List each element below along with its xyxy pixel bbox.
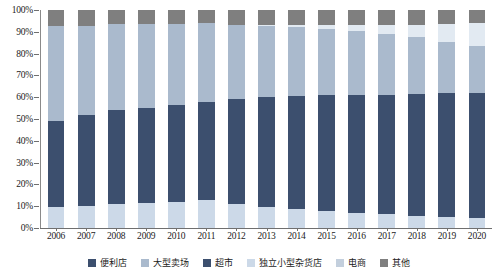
- bar-segment: [198, 102, 215, 200]
- bar-segment: [378, 10, 395, 25]
- legend-swatch-icon: [336, 259, 344, 267]
- bar-segment: [228, 99, 245, 204]
- stacked-bar[interactable]: [258, 10, 275, 228]
- y-axis-tick-mark: [34, 206, 39, 207]
- x-axis-tick-label: 2017: [372, 231, 402, 241]
- x-axis-tick-label: 2020: [462, 231, 492, 241]
- bar-segment: [288, 10, 305, 25]
- x-axis-tick-mark: [477, 228, 478, 231]
- bar-segment: [378, 25, 395, 34]
- stacked-bar[interactable]: [108, 10, 125, 228]
- bar-segment: [138, 24, 155, 108]
- stacked-bar[interactable]: [318, 10, 335, 228]
- bar-segment: [378, 34, 395, 95]
- bar-segment: [48, 26, 65, 121]
- legend-label: 大型卖场: [153, 258, 189, 268]
- bar-segment: [138, 10, 155, 24]
- bar-group: [438, 10, 455, 228]
- x-axis-tick-label: 2008: [101, 231, 131, 241]
- bar-segment: [138, 108, 155, 203]
- stacked-bar[interactable]: [198, 10, 215, 228]
- bar-segment: [258, 26, 275, 97]
- bar-series-container: [41, 10, 498, 228]
- bar-segment: [288, 27, 305, 96]
- stacked-bar[interactable]: [48, 10, 65, 228]
- y-axis-tick-label: 100%: [12, 6, 33, 15]
- bar-segment: [48, 10, 65, 26]
- legend-item[interactable]: 其他: [380, 258, 410, 268]
- legend-label: 其他: [392, 258, 410, 268]
- x-axis-tick-mark: [267, 228, 268, 231]
- y-axis-tick-label: 40%: [16, 136, 33, 145]
- stacked-bar[interactable]: [228, 10, 245, 228]
- y-axis-tick-mark: [34, 75, 39, 76]
- bar-group: [78, 10, 95, 228]
- bar-group: [168, 10, 185, 228]
- stacked-bar[interactable]: [168, 10, 185, 228]
- bar-group: [288, 10, 305, 228]
- legend-item[interactable]: 大型卖场: [141, 258, 189, 268]
- bar-segment: [469, 46, 486, 93]
- legend-item[interactable]: 电商: [336, 258, 366, 268]
- x-axis-line: [40, 228, 492, 229]
- bar-group: [378, 10, 395, 228]
- x-axis-tick-mark: [236, 228, 237, 231]
- bar-segment: [138, 203, 155, 228]
- x-axis-tick-mark: [86, 228, 87, 231]
- bar-segment: [258, 97, 275, 207]
- x-axis-labels: 2006200720082009201020112012201320142015…: [41, 231, 498, 247]
- x-axis-tick-label: 2009: [131, 231, 161, 241]
- bar-segment: [408, 216, 425, 228]
- x-axis-tick-mark: [387, 228, 388, 231]
- bar-segment: [78, 206, 95, 228]
- stacked-bar[interactable]: [408, 10, 425, 228]
- bar-segment: [168, 24, 185, 105]
- bar-group: [408, 10, 425, 228]
- bar-group: [228, 10, 245, 228]
- bar-segment: [288, 96, 305, 209]
- stacked-bar[interactable]: [378, 10, 395, 228]
- stacked-bar[interactable]: [288, 10, 305, 228]
- x-axis-tick-label: 2013: [251, 231, 281, 241]
- x-axis-tick-mark: [206, 228, 207, 231]
- bar-segment: [469, 10, 486, 23]
- stacked-bar[interactable]: [138, 10, 155, 228]
- bar-group: [469, 10, 486, 228]
- y-axis-tick-label: 20%: [16, 180, 33, 189]
- x-axis-tick-label: 2018: [402, 231, 432, 241]
- bar-segment: [198, 10, 215, 23]
- bar-group: [198, 10, 215, 228]
- bar-segment: [108, 10, 125, 24]
- bar-segment: [228, 204, 245, 228]
- legend-item[interactable]: 超市: [203, 258, 233, 268]
- legend-label: 独立小型杂货店: [259, 258, 322, 268]
- y-axis-tick-mark: [34, 54, 39, 55]
- bar-segment: [168, 10, 185, 24]
- bar-segment: [48, 121, 65, 207]
- bar-segment: [48, 207, 65, 228]
- legend-label: 便利店: [100, 258, 127, 268]
- legend-item[interactable]: 独立小型杂货店: [247, 258, 322, 268]
- y-axis-tick-mark: [34, 141, 39, 142]
- y-axis-tick-label: 80%: [16, 49, 33, 58]
- bar-segment: [438, 24, 455, 41]
- bar-segment: [469, 23, 486, 46]
- legend-swatch-icon: [247, 259, 255, 267]
- stacked-bar[interactable]: [469, 10, 486, 228]
- legend-item[interactable]: 便利店: [88, 258, 127, 268]
- bar-segment: [408, 94, 425, 216]
- x-axis-tick-label: 2016: [342, 231, 372, 241]
- bar-segment: [438, 217, 455, 228]
- stacked-bar[interactable]: [348, 10, 365, 228]
- y-axis-tick-mark: [34, 119, 39, 120]
- y-axis-tick-mark: [34, 97, 39, 98]
- x-axis-tick-mark: [56, 228, 57, 231]
- stacked-bar[interactable]: [438, 10, 455, 228]
- bar-segment: [168, 105, 185, 202]
- x-axis-tick-label: 2019: [432, 231, 462, 241]
- x-axis-tick-mark: [357, 228, 358, 231]
- bar-segment: [348, 10, 365, 25]
- bar-segment: [228, 25, 245, 99]
- bar-segment: [438, 10, 455, 24]
- stacked-bar[interactable]: [78, 10, 95, 228]
